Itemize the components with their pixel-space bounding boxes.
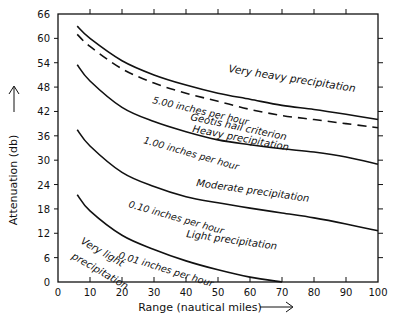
curve-label: Light precipitation xyxy=(186,228,278,252)
x-tick-label: 40 xyxy=(180,287,193,298)
curve-label: Very heavy precipitation xyxy=(228,62,357,94)
x-axis-label: Range (nautical miles) xyxy=(138,301,262,314)
y-tick-label: 18 xyxy=(37,204,50,215)
x-tick-label: 70 xyxy=(276,287,289,298)
x-axis-arrow-icon xyxy=(260,302,293,312)
x-tick-label: 10 xyxy=(84,287,97,298)
y-axis-arrow-icon xyxy=(9,86,19,112)
y-tick-label: 42 xyxy=(37,106,50,117)
curve-label: Moderate precipitation xyxy=(196,177,310,204)
curve-labels: 5.00 inches per hour1.00 inches per hour… xyxy=(69,62,356,291)
attenuation-chart: 0102030405060708090100 06121824303642485… xyxy=(0,0,393,320)
y-tick-label: 0 xyxy=(44,277,50,288)
y-tick-label: 24 xyxy=(37,180,50,191)
x-tick-label: 0 xyxy=(55,287,61,298)
y-tick-label: 54 xyxy=(37,58,50,69)
curve xyxy=(77,130,378,231)
y-tick-label: 48 xyxy=(37,82,50,93)
x-tick-label: 100 xyxy=(368,287,387,298)
y-tick-label: 12 xyxy=(37,228,50,239)
x-tick-label: 80 xyxy=(308,287,321,298)
y-tick-label: 6 xyxy=(44,253,50,264)
y-tick-label: 30 xyxy=(37,155,50,166)
curve-label: 0.01 inches per hour xyxy=(117,249,215,289)
y-tick-label: 66 xyxy=(37,9,50,20)
x-tick-label: 50 xyxy=(212,287,225,298)
x-tick-label: 60 xyxy=(244,287,257,298)
y-tick-label: 36 xyxy=(37,131,50,142)
y-axis-label: Attenuation (db) xyxy=(7,135,20,226)
x-tick-label: 30 xyxy=(148,287,161,298)
x-tick-label: 90 xyxy=(340,287,353,298)
y-tick-label: 60 xyxy=(37,33,50,44)
